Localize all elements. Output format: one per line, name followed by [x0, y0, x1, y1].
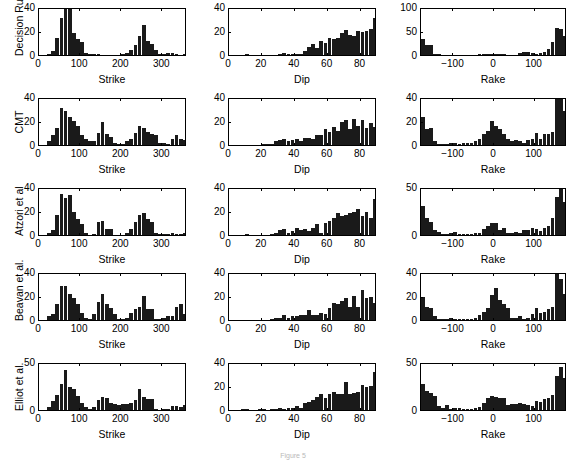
x-axis-tick-mark	[228, 408, 229, 411]
x-axis-tick-mark	[493, 53, 494, 56]
x-axis-tick-mark-top	[534, 8, 535, 11]
x-axis-tick-mark-top	[228, 98, 229, 101]
x-axis-tick-label: 0	[225, 59, 231, 69]
histogram-bar	[373, 18, 376, 55]
y-axis-tick-label: 0	[219, 141, 225, 151]
x-axis-tick-mark-top	[38, 8, 39, 11]
y-axis-tick-label: 40	[214, 268, 225, 278]
histogram-bar	[563, 202, 566, 235]
x-axis-tick-label: 0	[225, 414, 231, 424]
histogram-bars	[39, 99, 185, 145]
x-axis-tick-mark	[38, 233, 39, 236]
y-axis-tick-label: 20	[214, 117, 225, 127]
x-axis-tick-label: 0	[225, 239, 231, 249]
histogram-bars	[39, 274, 185, 320]
histogram-bar	[245, 234, 249, 235]
x-axis-label-strike: Strike	[99, 163, 126, 175]
histogram-bars	[229, 364, 375, 410]
y-axis-tick-label: 0	[411, 231, 417, 241]
x-axis-tick-label: 20	[255, 59, 266, 69]
row-label-beavan-et-al: Beavan et al.	[13, 273, 25, 321]
x-axis-tick-mark	[161, 318, 162, 321]
y-axis-tick-label: 0	[411, 316, 417, 326]
histogram-bar	[84, 233, 88, 235]
x-axis-tick-label: 60	[321, 239, 332, 249]
y-axis-tick-label: 40	[214, 93, 225, 103]
x-axis-tick-mark-top	[360, 363, 361, 366]
x-axis-tick-label: −100	[441, 414, 464, 424]
y-axis-tick-mark	[228, 212, 231, 213]
x-axis-tick-mark-top	[452, 8, 453, 11]
y-axis-tick-mark	[420, 410, 423, 411]
x-axis-label-dip: Dip	[294, 428, 310, 440]
x-axis-tick-label: 100	[525, 324, 542, 334]
x-axis-tick-mark	[294, 318, 295, 321]
y-axis-tick-mark	[228, 32, 231, 33]
histogram-panel-r2-c3: 02040−1000100	[420, 98, 566, 146]
x-axis-tick-mark-top	[452, 273, 453, 276]
x-axis-tick-mark	[452, 143, 453, 146]
histogram-bar	[183, 405, 186, 410]
x-axis-tick-mark	[38, 318, 39, 321]
x-axis-tick-mark	[327, 233, 328, 236]
x-axis-tick-mark	[294, 233, 295, 236]
histogram-panel-r3-c1: 020400100200300	[38, 188, 186, 236]
plot-axes	[420, 98, 566, 146]
x-axis-tick-label: 200	[112, 414, 129, 424]
y-axis-tick-mark	[228, 387, 231, 388]
x-axis-tick-label: 100	[525, 414, 542, 424]
x-axis-tick-mark	[294, 143, 295, 146]
x-axis-tick-mark	[120, 233, 121, 236]
x-axis-tick-mark	[79, 408, 80, 411]
x-axis-tick-label: 80	[354, 414, 365, 424]
x-axis-label-dip: Dip	[294, 338, 310, 350]
x-axis-tick-label: 0	[35, 59, 41, 69]
x-axis-tick-mark-top	[534, 188, 535, 191]
plot-axes	[38, 98, 186, 146]
y-axis-tick-label: 0	[411, 406, 417, 416]
x-axis-tick-mark-top	[228, 273, 229, 276]
y-axis-tick-label: 20	[24, 117, 35, 127]
x-axis-tick-mark-top	[38, 363, 39, 366]
x-axis-tick-mark-top	[79, 188, 80, 191]
y-axis-tick-label: 50	[406, 27, 417, 37]
plot-axes	[38, 363, 186, 411]
x-axis-tick-label: 100	[525, 149, 542, 159]
histogram-panel-r2-c2: 02040020406080	[228, 98, 376, 146]
y-axis-tick-label: 20	[24, 292, 35, 302]
histogram-bar	[183, 233, 186, 235]
row-label-atzori-et-al: Atzori et al	[13, 188, 25, 236]
figure-panel-grid: 020400100200300Strike02040020406080Dip05…	[0, 0, 587, 462]
x-axis-label-rake: Rake	[481, 253, 506, 265]
y-axis-tick-label: 0	[29, 231, 35, 241]
x-axis-tick-mark	[161, 408, 162, 411]
x-axis-tick-mark	[161, 53, 162, 56]
x-axis-tick-mark	[294, 53, 295, 56]
x-axis-tick-mark-top	[38, 188, 39, 191]
x-axis-tick-mark-top	[452, 363, 453, 366]
y-axis-tick-mark	[228, 297, 231, 298]
x-axis-tick-label: 200	[112, 149, 129, 159]
histogram-bar	[245, 54, 249, 55]
histogram-bar	[183, 314, 186, 320]
y-axis-tick-label: 40	[214, 3, 225, 13]
histogram-bars	[229, 274, 375, 320]
y-axis-tick-label: 50	[406, 183, 417, 193]
x-axis-tick-label: 60	[321, 414, 332, 424]
plot-axes	[420, 8, 566, 56]
x-axis-tick-mark	[534, 233, 535, 236]
x-axis-tick-label: 60	[321, 324, 332, 334]
y-axis-tick-mark	[38, 212, 41, 213]
x-axis-tick-mark-top	[493, 8, 494, 11]
x-axis-tick-mark	[79, 233, 80, 236]
x-axis-tick-label: 100	[71, 59, 88, 69]
y-axis-tick-label: 0	[219, 406, 225, 416]
x-axis-tick-mark	[120, 143, 121, 146]
histogram-panel-r5-c2: 02040020406080	[228, 363, 376, 411]
plot-axes	[420, 188, 566, 236]
histogram-bars	[39, 364, 185, 410]
histogram-bar	[373, 199, 376, 235]
y-axis-tick-label: 20	[24, 27, 35, 37]
y-axis-tick-label: 0	[29, 141, 35, 151]
x-axis-label-rake: Rake	[481, 428, 506, 440]
